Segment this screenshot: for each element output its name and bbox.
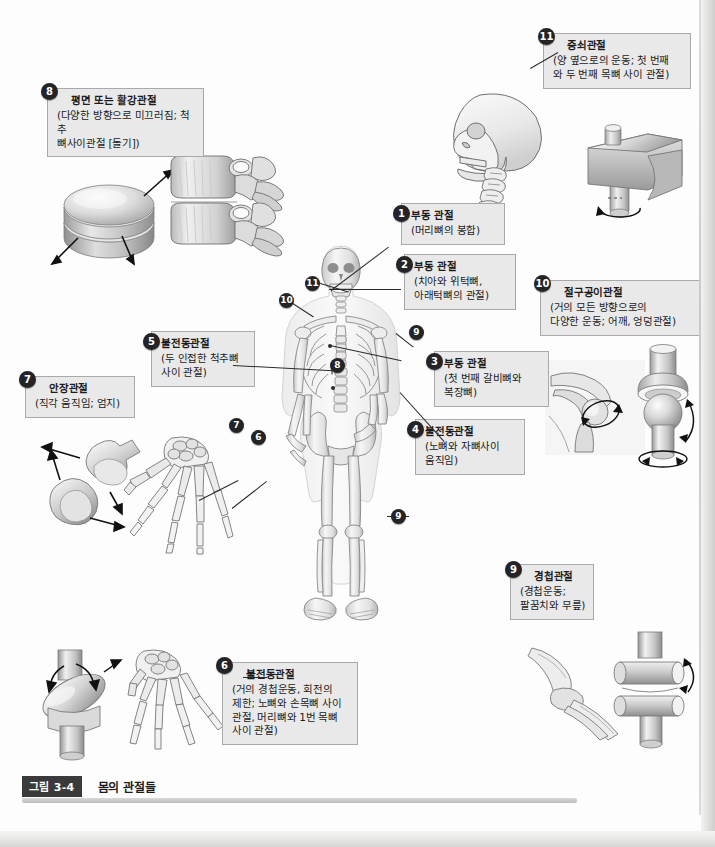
marker-neck-atlas-axis[interactable]: 11 [305, 276, 320, 291]
badge-5[interactable]: 5 [143, 333, 160, 350]
badge-2[interactable]: 2 [396, 256, 413, 273]
condyloid-joint-illustration [22, 650, 132, 760]
badge-4[interactable]: 4 [407, 421, 424, 438]
hinge-joint-illustration [614, 630, 709, 750]
gliding-disc-illustration [48, 160, 183, 280]
figure-caption: 그림 3-4 몸의 관절들 [22, 776, 582, 797]
label-box-1: 부동 관절 (머리뼈의 봉합) [401, 203, 505, 245]
pivot-joint-illustration [572, 120, 692, 230]
badge-3[interactable]: 3 [426, 353, 443, 370]
label-box-10: 절구공이관절 (거의 모든 방향으로의 다양한 운동; 어깨, 엉덩관절) [540, 280, 703, 336]
hand-skeleton-illustration [122, 430, 222, 555]
label-3-title: 부동 관절 [444, 357, 541, 371]
label-box-11: 중쇠관절 (양 옆으로의 운동; 첫 번째 와 두 번째 목뼈 사이 관절) [543, 33, 691, 89]
label-7-title: 안장관절 [35, 382, 127, 396]
page-edge-bottom [0, 831, 715, 847]
marker-spine-facet[interactable]: 8 [330, 358, 345, 373]
label-10-sub: (거의 모든 방향으로의 다양한 운동; 어깨, 엉덩관절) [550, 301, 695, 329]
label-box-8: 평면 또는 활강관절 (다양한 방향으로 미끄러짐; 척추 뼈사이관절 [돌기]… [47, 88, 204, 157]
figure-tag: 그림 3-4 [22, 776, 82, 797]
caption-divider [22, 798, 577, 803]
label-8-title: 평면 또는 활강관절 [57, 94, 196, 108]
label-box-6: 불전동관절 (거의 경첩운동, 회전의 제한; 노뼈와 손목뼈 사이 관절, 머… [222, 662, 358, 745]
badge-6[interactable]: 6 [216, 657, 233, 674]
figure-caption-text: 몸의 관절들 [98, 778, 156, 795]
marker-thumb[interactable]: 7 [229, 418, 244, 433]
label-box-3: 부동 관절 (첫 번째 갈비뼈와 복장뼈) [434, 351, 549, 407]
label-11-sub: (양 옆으로의 운동; 첫 번째 와 두 번째 목뼈 사이 관절) [553, 54, 683, 82]
label-1-sub: (머리뼈의 봉합) [411, 224, 497, 238]
badge-1[interactable]: 1 [393, 205, 410, 222]
marker-knee[interactable]: 9 [391, 509, 406, 524]
page-edge-right [701, 0, 715, 847]
label-box-9: 경첩관절 (경첩운동; 팔꿈치와 무릎) [510, 564, 594, 620]
badge-11[interactable]: 11 [538, 28, 555, 45]
label-7-sub: (직각 움직임; 엄지) [35, 397, 127, 411]
badge-10[interactable]: 10 [534, 275, 551, 292]
label-6-sub: (거의 경첩운동, 회전의 제한; 노뼈와 손목뼈 사이 관절, 머리뼈와 1번… [232, 683, 350, 738]
label-11-title: 중쇠관절 [553, 39, 683, 53]
leader-endpoint-3 [328, 344, 332, 348]
hand-skeleton-2-illustration [128, 645, 228, 755]
label-box-7: 안장관절 (직각 움직임; 엄지) [25, 376, 135, 418]
label-6-title: 불전동관절 [232, 668, 350, 682]
badge-8[interactable]: 8 [41, 83, 58, 100]
label-10-title: 절구공이관절 [550, 286, 695, 300]
label-8-sub: (다양한 방향으로 미끄러짐; 척추 뼈사이관절 [돌기]) [57, 109, 196, 151]
label-5-title: 불전동관절 [161, 337, 247, 351]
label-1-title: 부동 관절 [411, 209, 497, 223]
label-4-sub: (노뼈와 자뼈사이 움직임) [425, 440, 517, 468]
figure-page: 평면 또는 활강관절 (다양한 방향으로 미끄러짐; 척추 뼈사이관절 [돌기]… [0, 0, 715, 847]
leader-line-6 [243, 677, 267, 678]
label-3-sub: (첫 번째 갈비뼈와 복장뼈) [444, 372, 541, 400]
label-box-2: 부동 관절 (치아와 위턱뼈, 아래턱뼈의 관절) [404, 254, 516, 310]
badge-9[interactable]: 9 [505, 561, 522, 578]
label-2-title: 부동 관절 [414, 260, 508, 274]
marker-elbow[interactable]: 9 [409, 325, 424, 340]
label-9-title: 경첩관절 [520, 570, 586, 584]
badge-7[interactable]: 7 [19, 371, 36, 388]
label-box-5: 불전동관절 (두 인접한 척추뼈 사이 관절) [151, 331, 255, 387]
skull-neck-illustration [432, 85, 567, 210]
marker-wrist[interactable]: 6 [251, 430, 266, 445]
label-2-sub: (치아와 위턱뼈, 아래턱뼈의 관절) [414, 275, 508, 303]
label-9-sub: (경첩운동; 팔꿈치와 무릎) [520, 585, 586, 613]
ball-socket-illustration [628, 345, 708, 475]
leader-endpoint-5b [331, 386, 335, 390]
marker-shoulder[interactable]: 10 [279, 293, 294, 308]
